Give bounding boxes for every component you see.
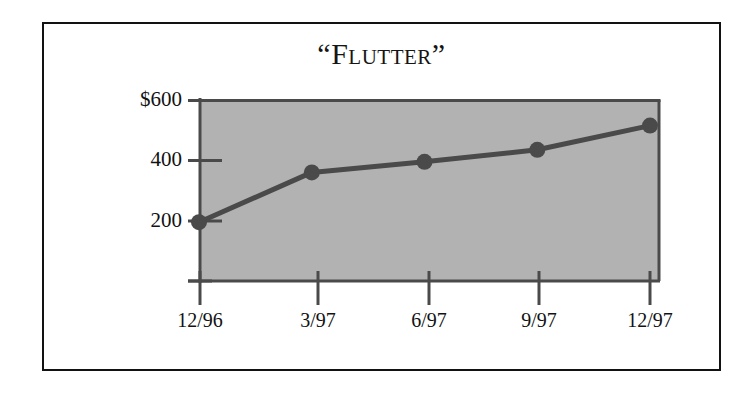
data-point-marker: [529, 142, 545, 158]
x-axis-tick-label-3-97: 3/97: [273, 310, 363, 330]
x-axis-tick-label-12-97: 12/97: [600, 310, 700, 330]
x-axis-tick-label-9-97: 9/97: [494, 310, 584, 330]
x-axis-tick-label-6-97: 6/97: [384, 310, 474, 330]
data-point-marker: [304, 164, 320, 180]
x-axis-tick-label-12-96: 12/96: [150, 310, 250, 330]
y-axis-tick-label-200: 200: [96, 210, 182, 231]
y-axis-tick-label-600: $600: [96, 89, 182, 110]
chart-figure: “Flutter” $600 400 200: [0, 0, 755, 394]
plot-area: [0, 0, 755, 394]
y-axis-tick-label-400: 400: [96, 149, 182, 170]
data-point-marker: [642, 118, 658, 134]
data-point-marker: [417, 154, 433, 170]
data-point-marker: [191, 214, 207, 230]
